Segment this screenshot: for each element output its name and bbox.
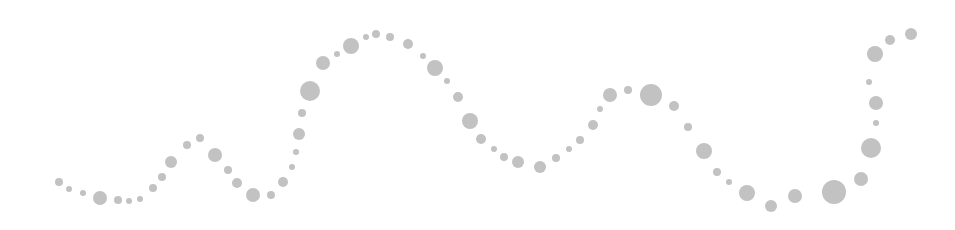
dot-17 (278, 177, 288, 187)
dot-48 (669, 101, 679, 111)
dot-18 (289, 164, 295, 170)
dot-24 (334, 51, 340, 57)
dot-13 (224, 166, 232, 174)
dot-28 (386, 33, 394, 41)
dot-51 (713, 168, 721, 176)
dot-27 (372, 30, 380, 38)
dot-40 (552, 154, 560, 162)
dot-0 (55, 178, 63, 186)
dot-26 (363, 34, 369, 40)
dot-55 (788, 189, 802, 203)
dot-63 (885, 35, 895, 45)
dot-6 (137, 196, 143, 202)
dot-11 (196, 134, 204, 142)
dot-7 (149, 184, 157, 192)
dot-8 (158, 173, 166, 181)
dot-47 (640, 84, 662, 106)
dot-10 (183, 141, 191, 149)
dot-61 (866, 79, 872, 85)
dot-34 (462, 113, 478, 129)
dot-19 (293, 149, 299, 155)
dot-9 (165, 156, 177, 168)
dotted-wave-svg (0, 0, 955, 230)
dot-54 (765, 200, 777, 212)
dot-35 (476, 134, 486, 144)
dot-32 (444, 78, 450, 84)
dotted-wave-graphic (0, 0, 955, 230)
dot-20 (293, 128, 305, 140)
dot-33 (453, 92, 463, 102)
dots-group (55, 28, 917, 212)
dot-21 (298, 109, 306, 117)
dot-2 (80, 190, 86, 196)
dot-43 (588, 120, 598, 130)
dot-16 (267, 191, 275, 199)
dot-31 (427, 60, 443, 76)
dot-22 (300, 81, 320, 101)
dot-42 (576, 136, 584, 144)
dot-15 (246, 188, 260, 202)
dot-41 (566, 146, 572, 152)
dot-5 (126, 198, 132, 204)
dot-4 (114, 196, 122, 204)
dot-56 (822, 180, 846, 204)
dot-23 (316, 56, 330, 70)
dot-49 (684, 123, 692, 131)
dot-14 (232, 178, 242, 188)
dot-30 (420, 53, 426, 59)
dot-37 (500, 153, 508, 161)
dot-44 (597, 106, 603, 112)
dot-25 (343, 38, 359, 54)
dot-58 (861, 138, 881, 158)
dot-29 (403, 39, 413, 49)
dot-60 (869, 96, 883, 110)
dot-59 (873, 120, 879, 126)
dot-53 (739, 185, 755, 201)
dot-38 (512, 156, 524, 168)
dot-36 (491, 146, 497, 152)
dot-12 (208, 148, 222, 162)
dot-64 (905, 28, 917, 40)
dot-46 (624, 86, 632, 94)
dot-62 (867, 46, 883, 62)
dot-45 (603, 88, 617, 102)
dot-57 (854, 172, 868, 186)
dot-3 (93, 191, 107, 205)
dot-39 (534, 161, 546, 173)
dot-50 (696, 143, 712, 159)
dot-1 (66, 186, 72, 192)
dot-52 (726, 179, 732, 185)
